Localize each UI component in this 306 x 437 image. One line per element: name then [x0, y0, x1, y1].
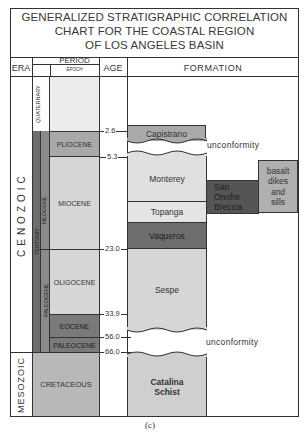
epoch-miocene-label: MIOCENE: [58, 200, 91, 207]
period-tertiary: TERTIARY: [33, 131, 41, 352]
formation-sespe: Sespe: [127, 248, 207, 330]
unconformity-label-upper: unconformity: [207, 140, 259, 150]
epoch-paleocene-label: PALEOCENE: [53, 342, 95, 349]
header-epoch: EPOCH: [50, 67, 99, 72]
age-66-0: 66.0: [104, 347, 121, 356]
formation-capistrano-label: Capistrano: [146, 129, 187, 139]
title-line-1: GENERALIZED STRATIGRAPHIC CORRELATION: [10, 10, 299, 24]
age-5-3: 5.3: [106, 152, 118, 161]
formation-topanga: Topanga: [127, 201, 207, 223]
formation-catalina-schist: Catalina Schist: [127, 357, 207, 417]
formation-san-onofre-breccia: San Onofre Breccia: [206, 180, 259, 214]
age-56-0: 56.0: [104, 332, 121, 341]
formation-san-onofre-line3: Breccia: [214, 202, 242, 212]
age-2-6: 2.6: [104, 126, 116, 135]
formation-basalt-line4: sills: [271, 197, 285, 208]
formation-vaqueros-label: Vaqueros: [149, 231, 185, 241]
formation-basalt-line3: and: [271, 187, 285, 198]
period-quaternary: QUATERNARY: [33, 77, 42, 131]
figure-caption: (c): [145, 420, 155, 430]
title-line-2: CHART FOR THE COASTAL REGION: [10, 24, 299, 38]
epoch-holocene-pleistocene-cell: [50, 77, 99, 131]
formation-basalt-dikes-sills: basalt dikes and sills: [258, 160, 298, 213]
epoch-pliocene-label: PLIOCENE: [57, 141, 92, 148]
epoch-miocene: MIOCENE: [50, 157, 99, 249]
period-neogene: NEOGENE: [41, 131, 50, 249]
header-formation: FORMATION: [127, 63, 299, 73]
chart-title: GENERALIZED STRATIGRAPHIC CORRELATION CH…: [10, 10, 299, 52]
unconformity-label-lower: unconformity: [206, 337, 258, 347]
formation-topanga-label: Topanga: [151, 207, 184, 217]
formation-catalina-line1: Catalina: [150, 377, 183, 387]
title-line-3: OF LOS ANGELES BASIN: [10, 38, 299, 52]
formation-san-onofre-line2: Onofre: [214, 192, 240, 202]
unconformity-wave-upper-top: [127, 138, 207, 146]
age-23-0: 23.0: [104, 244, 121, 253]
unconformity-wave-lower-top: [127, 327, 207, 335]
age-33-9: 33.9: [104, 309, 121, 318]
epoch-eocene-label: EOCENE: [60, 323, 90, 330]
epoch-col-divider: [99, 57, 100, 417]
formation-basalt-line2: dikes: [268, 176, 288, 187]
era-mesozoic: MESOZOIC: [10, 353, 32, 416]
formation-catalina-line2: Schist: [154, 387, 180, 397]
header-period: PERIOD: [50, 56, 99, 65]
period-cretaceous: CRETACEOUS: [33, 353, 99, 416]
era-cenozoic: CENOZOIC: [10, 77, 32, 352]
formation-sespe-label: Sespe: [155, 285, 179, 295]
formation-monterey-label: Monterey: [149, 174, 184, 184]
period-paleogene: PALEOGENE: [41, 249, 50, 352]
formation-san-onofre-line1: San: [214, 182, 229, 192]
epoch-oligocene-label: OLIGOCENE: [54, 279, 96, 286]
epoch-eocene: EOCENE: [50, 314, 99, 337]
epoch-pliocene: PLIOCENE: [50, 131, 99, 157]
formation-monterey: Monterey: [127, 156, 207, 202]
period-cretaceous-label: CRETACEOUS: [40, 380, 92, 389]
header-era: ERA: [10, 63, 32, 73]
epoch-oligocene: OLIGOCENE: [50, 249, 99, 314]
epoch-paleocene: PALEOCENE: [50, 337, 99, 352]
header-age: AGE: [99, 63, 127, 73]
formation-vaqueros: Vaqueros: [127, 222, 207, 249]
formation-basalt-line1: basalt: [267, 166, 290, 177]
